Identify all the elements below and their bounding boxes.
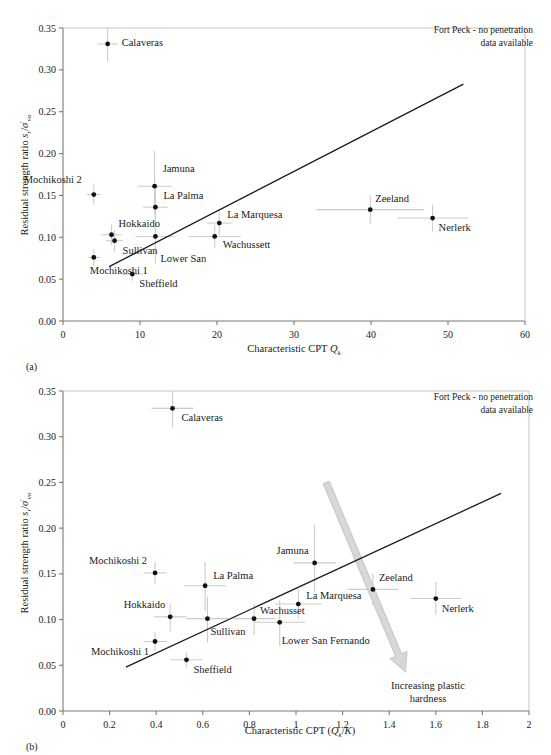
point-labels-group-a: CalaverasMochikoshi 2JamunaLa PalmaHokka… <box>24 37 472 289</box>
x-tick-label: 20 <box>212 329 222 340</box>
point-labels-group-b: CalaverasMochikoshi 2La PalmaHokkaidoSul… <box>89 412 475 674</box>
y-axis-title-sigma-sub: vo <box>25 114 33 121</box>
svg-text:Residual strength ratio sr/σ′v: Residual strength ratio sr/σ′vo <box>18 492 33 613</box>
x-axis-title-text: Characteristic CPT ( <box>245 725 332 737</box>
x-tick-label: 0.4 <box>150 719 163 730</box>
data-point-label: La Palma <box>163 190 203 201</box>
note-line2: data available <box>481 405 533 415</box>
data-point[interactable] <box>152 184 157 189</box>
data-point-label: Calaveras <box>182 412 223 423</box>
data-point[interactable] <box>170 406 175 411</box>
y-axis-title-b: Residual strength ratio sr/σ′vo <box>18 492 33 613</box>
data-point-label: Lower San <box>160 253 207 264</box>
y-tick-label: 0.30 <box>39 64 57 75</box>
arrow-note-line1: Increasing plastic <box>391 680 465 691</box>
y-tick-label: 0.15 <box>39 190 57 201</box>
svg-text:Characteristic CPT Qk: Characteristic CPT Qk <box>247 343 341 357</box>
data-point-label: Mochikoshi 2 <box>89 555 147 566</box>
x-tick-label: 10 <box>135 329 145 340</box>
data-point[interactable] <box>312 560 317 565</box>
data-point-label: Hokkaido <box>124 599 165 610</box>
y-tick-label: 0.20 <box>39 148 57 159</box>
data-point[interactable] <box>203 583 208 588</box>
data-point[interactable] <box>252 616 257 621</box>
x-axis-title-a: Characteristic CPT Qk <box>247 343 341 357</box>
data-point[interactable] <box>153 234 158 239</box>
data-point-label: Wachussett <box>223 239 271 250</box>
y-tick-label: 0.05 <box>39 660 57 671</box>
data-point[interactable] <box>368 207 373 212</box>
data-point[interactable] <box>153 205 158 210</box>
data-point[interactable] <box>91 192 96 197</box>
x-tick-label: 30 <box>289 329 299 340</box>
panel-tag-b: (b) <box>26 741 38 753</box>
y-axis-title-text: Residual strength ratio <box>19 516 30 614</box>
scatter-plot-a: 0.000.050.100.150.200.250.300.3501020304… <box>0 0 551 377</box>
axes-group-a: 0.000.050.100.150.200.250.300.3501020304… <box>39 23 531 341</box>
note-line1: Fort Peck - no penetration <box>434 392 533 402</box>
x-tick-label: 2 <box>527 719 532 730</box>
x-tick-label: 0.6 <box>197 719 210 730</box>
panel-tag-a: (a) <box>26 361 37 373</box>
x-tick-label: 1.6 <box>430 719 443 730</box>
errorbars-group-b <box>143 391 461 667</box>
x-tick-label: 50 <box>443 329 453 340</box>
x-axis-title-text: Characteristic CPT <box>247 343 330 354</box>
data-point[interactable] <box>184 657 189 662</box>
data-point-label: Jamuna <box>163 163 195 174</box>
arrow-note-line2: hardness <box>410 693 447 704</box>
data-point[interactable] <box>109 232 114 237</box>
data-point[interactable] <box>277 620 282 625</box>
scatter-plot-b: 0.000.050.100.150.200.250.300.3500.20.40… <box>0 378 551 755</box>
data-point-label: La Marquesa <box>227 209 282 220</box>
y-tick-label: 0.00 <box>39 706 57 717</box>
y-tick-label: 0.15 <box>39 568 57 579</box>
data-point-label: Jamuna <box>277 545 309 556</box>
data-point[interactable] <box>370 587 375 592</box>
y-tick-label: 0.25 <box>39 477 57 488</box>
data-point-label: Wachusset <box>260 605 305 616</box>
data-point-label: La Palma <box>213 570 253 581</box>
x-tick-label: 0.2 <box>103 719 116 730</box>
data-point-label: Calaveras <box>122 37 163 48</box>
x-tick-label: 0 <box>61 329 66 340</box>
data-point-label: Lower San Fernando <box>282 635 370 646</box>
y-tick-label: 0.20 <box>39 523 57 534</box>
data-point-label: Zeeland <box>379 572 414 583</box>
y-tick-label: 0.10 <box>39 232 57 243</box>
data-point-label: Sullivan <box>123 245 159 256</box>
data-point[interactable] <box>105 42 110 47</box>
data-point-label: Nerlerk <box>442 603 475 614</box>
data-point[interactable] <box>205 616 210 621</box>
x-tick-label: 1.4 <box>383 719 396 730</box>
y-axis-title-sigma-sub: vo <box>25 492 33 499</box>
note-annotation-b: Fort Peck - no penetration data availabl… <box>434 392 533 415</box>
data-point-label: Zeeland <box>375 193 410 204</box>
data-point-label: Sullivan <box>210 626 246 637</box>
x-tick-label: 0 <box>61 719 66 730</box>
data-point[interactable] <box>212 234 217 239</box>
data-point[interactable] <box>112 238 117 243</box>
x-axis-title-subscript: k <box>338 349 342 357</box>
y-tick-label: 0.25 <box>39 106 57 117</box>
y-tick-label: 0.35 <box>39 23 57 34</box>
x-axis-title-end: ) <box>352 725 356 737</box>
figure-container: 0.000.050.100.150.200.250.300.3501020304… <box>0 0 551 755</box>
data-point[interactable] <box>168 614 173 619</box>
note-line1: Fort Peck - no penetration <box>434 25 533 35</box>
data-point-label: La Marquesa <box>306 590 361 601</box>
arrow-annotation-b: Increasing plastic hardness <box>391 680 465 704</box>
data-point-label: Nerlerk <box>439 222 472 233</box>
y-tick-label: 0.10 <box>39 614 57 625</box>
data-point[interactable] <box>433 596 438 601</box>
fit-line-a <box>109 84 463 266</box>
data-point[interactable] <box>91 255 96 260</box>
data-point[interactable] <box>217 221 222 226</box>
y-tick-label: 0.05 <box>39 274 57 285</box>
data-point-label: Sheffield <box>139 278 178 289</box>
data-point[interactable] <box>153 639 158 644</box>
y-axis-title-text: Residual strength ratio <box>19 138 30 236</box>
y-tick-label: 0.35 <box>39 386 57 397</box>
data-point[interactable] <box>430 216 435 221</box>
data-point[interactable] <box>153 571 158 576</box>
